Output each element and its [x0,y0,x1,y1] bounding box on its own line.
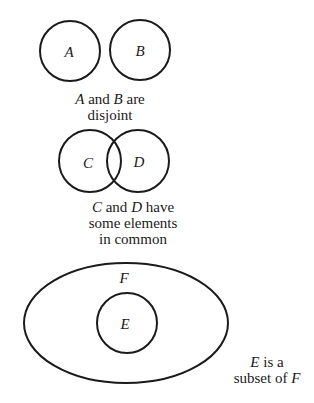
caption-var-f: F [291,370,300,386]
set-c-label: C [83,155,93,172]
caption-var-d: D [131,199,142,215]
caption-var-b: B [114,91,123,107]
caption-text: disjoint [60,107,160,123]
set-a-label: A [64,44,73,61]
caption-text: some elements [83,215,183,231]
caption-text: in common [83,231,183,247]
overlap-caption: C and D have some elements in common [83,199,183,247]
caption-text: and [84,91,113,107]
set-f-label: F [119,270,128,287]
caption-var-e: E [250,354,259,370]
set-e-label: E [120,316,129,333]
caption-var-c: C [92,199,102,215]
caption-text: subset of [234,370,292,386]
set-b-label: B [135,43,144,60]
caption-text: have [142,199,174,215]
caption-text: and [102,199,131,215]
caption-var-a: A [75,91,84,107]
caption-text: is a [260,354,284,370]
set-d-label: D [134,154,145,171]
caption-text: are [123,91,145,107]
disjoint-caption: A and B are disjoint [60,91,160,123]
subset-caption: E is a subset of F [222,354,312,386]
